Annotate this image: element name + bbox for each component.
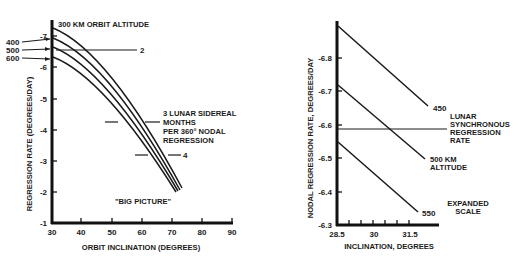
svg-text:70: 70 [168, 228, 177, 237]
svg-text:RATE: RATE [450, 136, 470, 145]
line-550 [338, 142, 418, 212]
svg-text:90: 90 [228, 228, 237, 237]
svg-text:600: 600 [6, 54, 20, 63]
svg-text:-6.8: -6.8 [318, 54, 332, 63]
curve-400km [53, 38, 180, 190]
svg-text:-6: -6 [40, 63, 48, 72]
expanded-scale-chart: -6.8 -6.7 -6.6 -6.5 -6.4 -6.3 28.5 30 31… [306, 21, 510, 251]
svg-text:28.5: 28.5 [329, 230, 345, 239]
orbit-altitude-label: 300 KM ORBIT ALTITUDE [58, 20, 149, 29]
label-500-altitude: ALTITUDE [430, 163, 467, 172]
curve-300km [53, 28, 182, 188]
curve-500km [53, 47, 178, 191]
expanded-scale-line2: SCALE [455, 207, 481, 216]
big-picture-title: "BIG PICTURE" [115, 197, 172, 206]
svg-text:-6.3: -6.3 [318, 221, 332, 230]
right-x-axis-label: INCLINATION, DEGREES [344, 242, 434, 251]
svg-text:-6.4: -6.4 [318, 188, 332, 197]
svg-text:60: 60 [138, 228, 147, 237]
svg-text:-6.6: -6.6 [318, 121, 332, 130]
svg-text:-3: -3 [40, 157, 48, 166]
svg-text:-6.5: -6.5 [318, 154, 332, 163]
curve-600km [53, 57, 176, 192]
big-picture-chart: -7 -6 -5 -4 -3 -2 -1 30 40 50 60 70 80 9… [6, 20, 237, 252]
svg-text:REGRESSION: REGRESSION [163, 136, 214, 145]
left-y-tick-labels: -7 -6 -5 -4 -3 -2 -1 [40, 32, 48, 228]
svg-text:3 LUNAR SIDEREAL: 3 LUNAR SIDEREAL [163, 109, 237, 118]
figure: -7 -6 -5 -4 -3 -2 -1 30 40 50 60 70 80 9… [0, 0, 522, 259]
svg-text:-1: -1 [40, 219, 48, 228]
svg-text:-5: -5 [40, 95, 48, 104]
right-y-tick-labels: -6.8 -6.7 -6.6 -6.5 -6.4 -6.3 [318, 54, 332, 230]
lunar-synchronous-label: LUNAR SYNCHRONOUS REGRESSION RATE [450, 112, 510, 145]
svg-text:80: 80 [198, 228, 207, 237]
label-550: 550 [422, 209, 436, 218]
svg-text:-4: -4 [40, 126, 48, 135]
left-y-axis-label: REGRESSION RATE (DEGREES/DAY) [25, 76, 34, 211]
svg-text:2: 2 [140, 46, 145, 55]
svg-text:30: 30 [48, 228, 57, 237]
svg-text:50: 50 [108, 228, 117, 237]
lunar-month-references: 2 3 LUNAR SIDEREAL MONTHS PER 360° NODAL… [56, 46, 237, 160]
svg-text:30: 30 [370, 230, 379, 239]
left-x-axis-label: ORBIT INCLINATION (DEGREES) [82, 243, 201, 252]
svg-text:-6.7: -6.7 [318, 87, 332, 96]
svg-text:PER 360° NODAL: PER 360° NODAL [163, 127, 226, 136]
line-500 [338, 85, 425, 159]
svg-text:-2: -2 [40, 188, 48, 197]
svg-text:31.5: 31.5 [402, 230, 418, 239]
svg-text:4: 4 [183, 151, 188, 160]
svg-text:40: 40 [77, 228, 86, 237]
line-450 [338, 26, 428, 106]
label-450: 450 [433, 104, 447, 113]
svg-text:MONTHS: MONTHS [163, 118, 196, 127]
left-x-tick-labels: 30 40 50 60 70 80 90 [48, 228, 237, 237]
right-x-tick-labels: 28.5 30 31.5 [329, 230, 418, 239]
expanded-series [338, 26, 428, 212]
right-y-axis-label: NODAL REGRESSION RATE, DEGREES/DAY [306, 58, 315, 219]
